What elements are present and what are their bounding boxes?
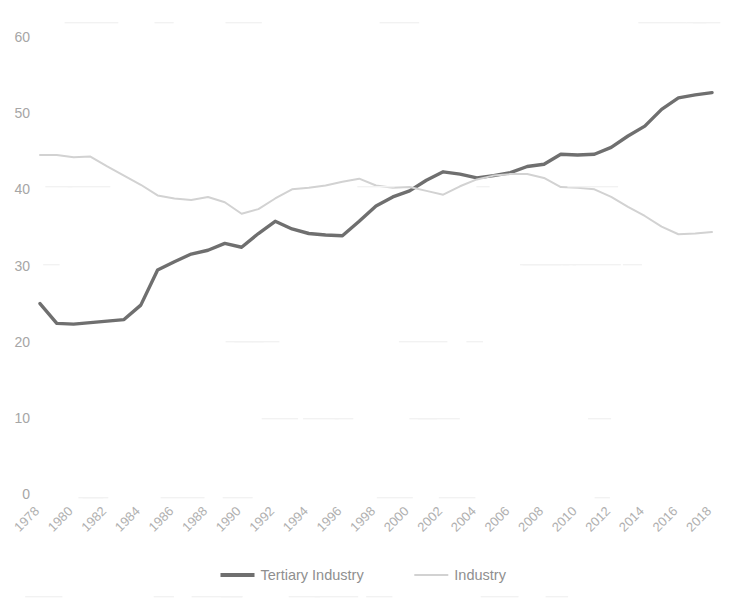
- y-tick-label: 30: [14, 258, 30, 274]
- legend-label-tertiary-industry[interactable]: Tertiary Industry: [261, 567, 365, 583]
- scan-artifact: [380, 22, 420, 23]
- scan-artifact: [377, 497, 413, 498]
- scan-artifact: [262, 418, 298, 419]
- scan-artifact: [221, 596, 242, 597]
- scan-artifact: [226, 22, 262, 23]
- scan-artifact: [161, 497, 205, 498]
- scan-artifact: [588, 418, 611, 419]
- y-tick-label: 60: [14, 29, 30, 45]
- scan-artifact: [65, 22, 119, 23]
- scan-artifact: [366, 596, 392, 597]
- y-tick-label: 10: [14, 410, 30, 426]
- scan-artifact: [303, 418, 338, 419]
- scan-artifact: [235, 341, 280, 342]
- scan-artifact: [638, 22, 686, 23]
- scan-artifact: [154, 596, 174, 597]
- y-tick-label: 0: [22, 486, 30, 502]
- scan-artifact: [567, 186, 618, 187]
- scan-artifact: [546, 596, 569, 597]
- legend-label-industry[interactable]: Industry: [454, 567, 506, 583]
- scan-artifact: [623, 264, 642, 265]
- scan-artifact: [78, 497, 108, 498]
- scan-artifact: [357, 186, 394, 187]
- y-tick-label: 20: [14, 334, 30, 350]
- scan-artifact: [43, 264, 59, 265]
- y-tick-label: 40: [14, 181, 30, 197]
- scan-artifact: [155, 22, 174, 23]
- scan-artifact: [595, 497, 610, 498]
- scan-artifact: [573, 264, 621, 265]
- scan-artifact: [399, 341, 448, 342]
- chart-legend[interactable]: Tertiary IndustryIndustry: [221, 567, 507, 583]
- scan-artifact: [693, 22, 706, 23]
- scan-artifact: [476, 186, 489, 187]
- line-chart: 0102030405060 19781980198219841986198819…: [0, 0, 740, 612]
- y-tick-label: 50: [14, 105, 30, 121]
- scan-artifact: [523, 264, 570, 265]
- scan-artifact: [315, 596, 359, 597]
- scan-artifact: [25, 596, 62, 597]
- scan-artifact: [466, 341, 483, 342]
- scan-artifact: [409, 418, 437, 419]
- scan-artifact: [439, 497, 476, 498]
- scan-artifact: [68, 186, 111, 187]
- scan-artifact: [481, 596, 519, 597]
- chart-svg: 0102030405060 19781980198219841986198819…: [0, 0, 740, 612]
- scan-artifact: [223, 497, 253, 498]
